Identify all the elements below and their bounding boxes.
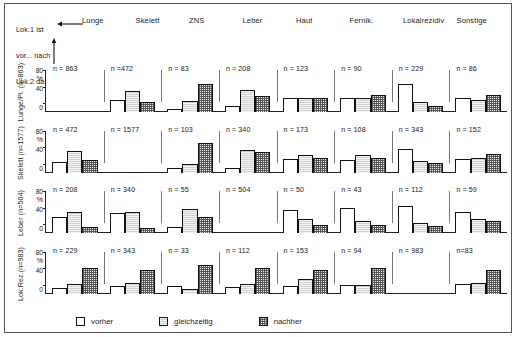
bar-group (398, 200, 444, 233)
row-label-text: Skelett (n=1577) (17, 126, 25, 180)
bar-gleichzeitig (67, 284, 82, 293)
bar-nachher (371, 225, 386, 233)
bar-group (398, 261, 444, 294)
bar-vorher (340, 98, 355, 112)
bar-nachher (313, 158, 328, 173)
panel-fernlk: n = 108 (334, 123, 392, 184)
bar-vorher (167, 168, 182, 173)
bar-vorher (398, 149, 413, 173)
panel-lokalrezidiv: n = 229 (392, 62, 450, 123)
bar-nachher (198, 84, 213, 112)
bar-group (110, 261, 156, 294)
panel-skelett: n =472 (104, 62, 162, 123)
bar-group (455, 200, 501, 233)
bar-gleichzeitig (182, 164, 197, 173)
panel-n-label: n = 229 (53, 247, 78, 255)
bar-group (340, 79, 386, 112)
bar-group (167, 79, 213, 112)
bar-vorher (225, 287, 240, 293)
panel-n-label: n = 94 (341, 247, 362, 255)
panel-separator (392, 191, 393, 223)
panel-n-label: n = 983 (399, 247, 424, 255)
panel-n-label: n = 229 (399, 65, 424, 73)
bar-group (110, 79, 156, 112)
bar-vorher (398, 84, 413, 112)
bar-group (283, 261, 329, 294)
panel-haut: n = 50 (277, 183, 335, 244)
bar-group (167, 200, 213, 233)
bar-gleichzeitig (182, 289, 197, 294)
bar-gleichzeitig (67, 151, 82, 172)
bar-nachher (82, 227, 97, 233)
panel-separator (334, 191, 335, 223)
bar-nachher (486, 154, 501, 173)
bar-group (225, 200, 271, 233)
panel-separator (277, 252, 278, 284)
bar-gleichzeitig (355, 285, 370, 294)
bar-group (52, 261, 98, 294)
panel-separator (449, 252, 450, 284)
y-axis: 80%400 (28, 123, 46, 184)
panel-separator (161, 131, 162, 163)
bar-nachher (371, 268, 386, 293)
bar-gleichzeitig (298, 279, 313, 293)
panel-strip: n = 472n = 1577n = 103n = 340n = 173n = … (46, 123, 507, 184)
bar-gleichzeitig (67, 212, 82, 233)
bar-gleichzeitig (471, 100, 486, 112)
bar-gleichzeitig (240, 150, 255, 172)
column-header-sonstige: Sonstige (454, 16, 508, 30)
panel-sonstige: n = 59 (449, 183, 507, 244)
bar-nachher (82, 268, 97, 294)
bar-nachher (255, 96, 270, 113)
panel-separator (104, 131, 105, 163)
panel-n-label: n=83 (456, 247, 472, 255)
bar-group (167, 140, 213, 173)
panel-skelett: n = 343 (104, 244, 162, 305)
panel-strip: n = 208n = 340n = 55n = 504n = 50n = 43n… (46, 183, 507, 244)
bar-nachher (313, 270, 328, 293)
bar-group (283, 140, 329, 173)
bar-group (340, 261, 386, 294)
bar-gleichzeitig (355, 155, 370, 172)
row-label-text: Lunge/Pl. (n=863) (17, 63, 25, 121)
bar-gleichzeitig (182, 101, 197, 112)
bar-gleichzeitig (471, 283, 486, 293)
legend-item-gleichzeitig: gleichzeitig (159, 317, 213, 326)
y-tick-label: 80 (36, 250, 43, 256)
panel-separator (219, 252, 220, 284)
bar-group (340, 200, 386, 233)
column-header-zns: ZNS (186, 16, 240, 30)
panel-zns: n = 103 (161, 123, 219, 184)
bar-gleichzeitig (355, 221, 370, 233)
panel-fernlk: n = 43 (334, 183, 392, 244)
panel-lunge: n = 208 (46, 183, 104, 244)
y-axis: 80%400 (28, 183, 46, 244)
panel-n-label: n = 173 (284, 126, 309, 134)
panel-strip: n = 863n =472n = 83n = 208n = 123n = 90n… (46, 62, 507, 123)
bar-nachher (198, 217, 213, 233)
legend-swatch-vorher (76, 317, 85, 326)
panel-fernlk: n = 90 (334, 62, 392, 123)
bar-gleichzeitig (240, 284, 255, 293)
bar-group (283, 79, 329, 112)
bar-nachher (140, 228, 155, 233)
bar-group (52, 79, 98, 112)
bar-gleichzeitig (125, 91, 140, 112)
panel-separator (277, 131, 278, 163)
column-header-leber: Leber (240, 16, 294, 30)
panel-zns: n = 83 (161, 62, 219, 123)
bar-nachher (255, 268, 270, 294)
caption-line-2: vor... nach (16, 52, 50, 61)
bar-vorher (52, 288, 67, 293)
bar-vorher (52, 162, 67, 172)
y-tick-label: 40 (36, 86, 43, 92)
bar-gleichzeitig (298, 219, 313, 233)
column-header-lokalrezidiv: Lokalrezidiv (400, 16, 454, 30)
panel-n-label: n = 208 (226, 65, 251, 73)
y-tick-label: % (36, 197, 43, 203)
panel-n-label: n = 504 (226, 186, 251, 194)
bar-gleichzeitig (298, 98, 313, 112)
panel-n-label: n = 86 (456, 65, 477, 73)
bar-gleichzeitig (298, 155, 313, 172)
bar-group (52, 140, 98, 173)
